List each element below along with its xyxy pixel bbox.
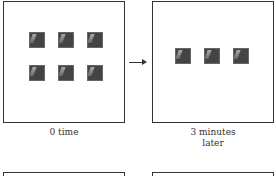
- square: [233, 48, 249, 64]
- panel-later: [152, 1, 274, 123]
- caption-later-line1: 3 minutes: [152, 127, 274, 138]
- panel-bottom-right: [152, 172, 274, 176]
- square: [204, 48, 220, 64]
- square: [175, 48, 191, 64]
- square: [58, 65, 74, 81]
- panel-bottom-left: [3, 172, 125, 176]
- arrow-right-icon: [129, 62, 146, 63]
- caption-later-line2: later: [152, 138, 274, 149]
- square: [29, 32, 45, 48]
- panel-initial: [3, 1, 125, 123]
- caption-initial: 0 time: [3, 127, 125, 138]
- square: [87, 32, 103, 48]
- caption-later: 3 minutes later: [152, 127, 274, 149]
- square: [87, 65, 103, 81]
- square: [58, 32, 74, 48]
- square: [29, 65, 45, 81]
